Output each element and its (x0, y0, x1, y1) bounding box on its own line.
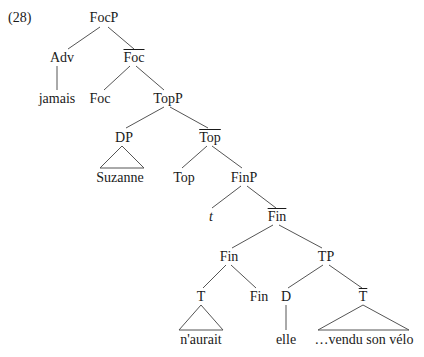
node-fin-low: Fin (250, 289, 269, 305)
node-trace: t (209, 209, 213, 225)
node-fin-bar: Fin (268, 209, 287, 225)
leaf-vendu-son-velo: …vendu son vélo (315, 332, 414, 348)
leaf-suzanne: Suzanne (96, 170, 143, 186)
leaf-jamais: jamais (39, 91, 76, 107)
node-foc: Foc (90, 91, 111, 107)
node-focp: FocP (90, 10, 119, 26)
leaf-naurait: n'aurait (180, 332, 221, 348)
node-d: D (281, 289, 291, 305)
node-top: Top (173, 170, 195, 186)
node-top-bar: Top (199, 130, 221, 146)
node-tp: TP (318, 249, 334, 265)
node-fin-head: Fin (220, 249, 239, 265)
leaf-elle: elle (276, 332, 296, 348)
syntax-tree-diagram: (28) FocP Adv Foc jamais Foc TopP DP Top… (0, 0, 424, 357)
node-dp: DP (115, 130, 133, 146)
example-number: (28) (8, 10, 31, 26)
node-finp: FinP (231, 170, 257, 186)
node-adv: Adv (50, 50, 74, 66)
node-t-bar: T (359, 289, 368, 305)
node-t-head: T (197, 289, 206, 305)
node-topp: TopP (153, 91, 182, 107)
node-foc-bar: Foc (124, 50, 145, 66)
